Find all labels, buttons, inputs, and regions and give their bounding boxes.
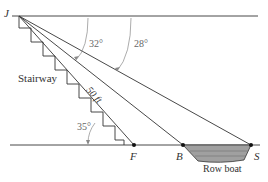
point-label-S: S xyxy=(254,151,260,162)
row-boat xyxy=(183,145,251,162)
angle-35-label: 35° xyxy=(77,122,91,132)
stairway-label: Stairway xyxy=(18,73,57,84)
point-label-F: F xyxy=(130,151,137,162)
row-boat-label: Row boat xyxy=(203,164,242,174)
point-label-J: J xyxy=(4,8,9,19)
point-B xyxy=(181,143,185,147)
point-S xyxy=(249,143,253,147)
arc-28 xyxy=(117,18,131,71)
point-label-B: B xyxy=(176,151,183,162)
point-F xyxy=(132,143,136,147)
angle-32-label: 32° xyxy=(89,39,103,49)
arc-35-arrow xyxy=(86,140,90,145)
angle-28-label: 28° xyxy=(134,39,148,49)
